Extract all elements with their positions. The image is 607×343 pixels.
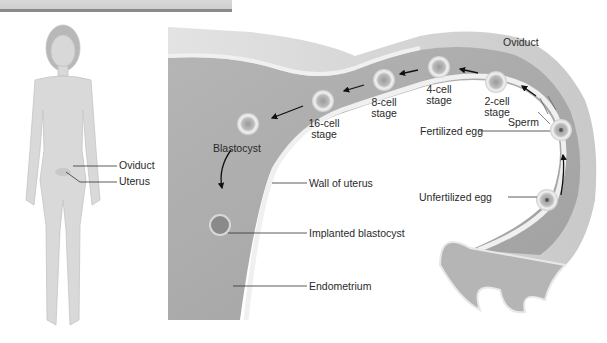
sixteen-cell-embryo: [312, 90, 334, 112]
label-16-cell-stage: 16-cell stage: [303, 118, 345, 140]
label-4-cell-stage: 4-cell stage: [419, 84, 459, 106]
four-cell-embryo: [428, 56, 450, 78]
reproductive-tract-diagram: [0, 0, 607, 343]
unfertilized-egg: [536, 189, 558, 211]
label-fertilized-egg: Fertilized egg: [420, 126, 483, 137]
label-unfertilized-egg: Unfertilized egg: [419, 192, 492, 203]
body-label-uterus: Uterus: [119, 176, 150, 187]
body-label-oviduct: Oviduct: [119, 160, 155, 171]
two-cell-embryo: [485, 71, 507, 93]
label-2-cell-stage: 2-cell stage: [477, 96, 517, 118]
eight-cell-embryo: [373, 69, 395, 91]
implanted-blastocyst: [210, 215, 230, 235]
fertilized-egg: [550, 119, 572, 141]
label-endometrium: Endometrium: [309, 281, 371, 292]
label-oviduct: Oviduct: [503, 37, 539, 48]
label-sperm: Sperm: [508, 117, 539, 128]
label-wall-of-uterus: Wall of uterus: [309, 178, 373, 189]
label-implanted-blastocyst: Implanted blastocyst: [309, 228, 405, 239]
blastocyst: [237, 113, 259, 135]
label-8-cell-stage: 8-cell stage: [364, 97, 404, 119]
human-body-figure: [26, 25, 100, 325]
label-blastocyst: Blastocyst: [213, 143, 261, 154]
